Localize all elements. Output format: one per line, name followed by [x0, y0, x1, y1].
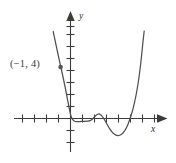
graph-figure: (−1, 4) x y [0, 0, 176, 163]
graph-canvas [0, 0, 176, 163]
x-axis-arrowhead [157, 114, 168, 122]
point-coordinate-label: (−1, 4) [10, 58, 40, 69]
x-axis-label: x [151, 124, 155, 134]
y-axis-label: y [79, 11, 83, 21]
point-marker [58, 65, 63, 70]
y-axis-arrowhead [66, 11, 74, 21]
